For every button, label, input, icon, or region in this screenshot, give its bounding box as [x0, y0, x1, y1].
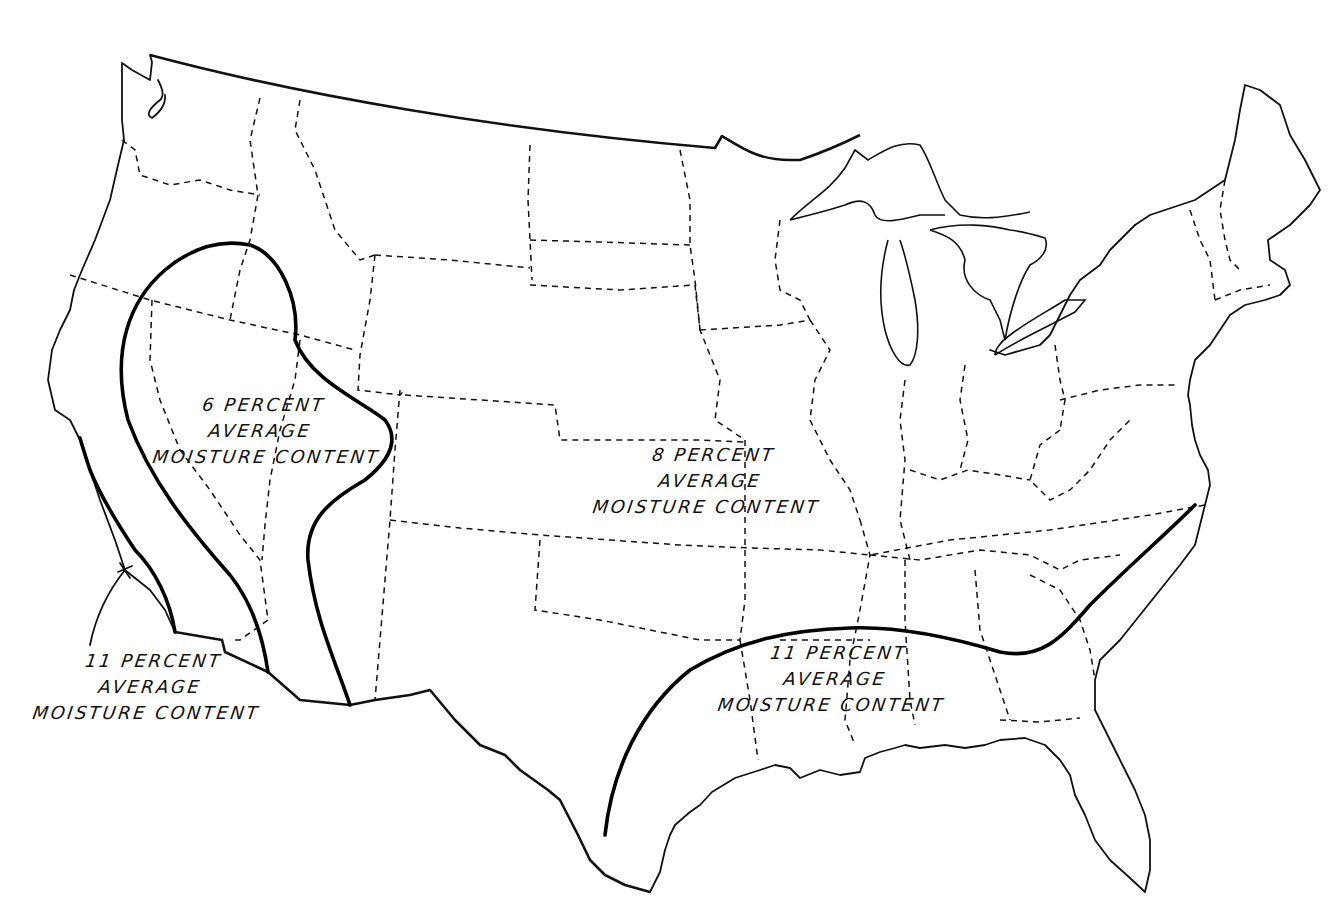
zone-11-pacific-line-2: AVERAGE [23, 674, 277, 700]
zone-6-boundary [121, 243, 392, 705]
lake-ontario [990, 225, 1135, 355]
zone-11-pacific-line-1: 11 PERCENT [27, 648, 281, 674]
puget-sound [149, 80, 165, 118]
zone-11-southeast-line-3: MOISTURE CONTENT [700, 692, 964, 718]
great-lakes [790, 144, 1085, 366]
zone-11-pacific-label: 11 PERCENT AVERAGE MOISTURE CONTENT [20, 648, 281, 726]
zone-6-line-3: MOISTURE CONTENT [135, 444, 399, 470]
zone-6-label: 6 PERCENT AVERAGE MOISTURE CONTENT [135, 392, 406, 470]
zone-boundaries [80, 243, 1195, 835]
lake-erie [995, 300, 1085, 355]
zone-8-line-3: MOISTURE CONTENT [570, 494, 844, 520]
zone-8-line-2: AVERAGE [573, 468, 847, 494]
atlantic-coastline [1095, 85, 1320, 710]
zone-11-southeast-line-1: 11 PERCENT [707, 640, 971, 666]
pacific-label-leader [90, 563, 132, 645]
zone-11-pacific-line-3: MOISTURE CONTENT [20, 700, 274, 726]
zone-8-label: 8 PERCENT AVERAGE MOISTURE CONTENT [570, 442, 851, 520]
gulf-coastline [650, 710, 1150, 892]
zone-6-line-1: 6 PERCENT [122, 392, 406, 418]
lake-superior [790, 144, 1030, 221]
zone-6-line-2: AVERAGE [118, 418, 402, 444]
zone-11-southeast-label: 11 PERCENT AVERAGE MOISTURE CONTENT [700, 640, 971, 718]
zone-11-southeast-line-2: AVERAGE [703, 666, 967, 692]
zone-8-line-1: 8 PERCENT [577, 442, 851, 468]
canada-border [150, 55, 860, 160]
pacific-coastline [48, 55, 175, 632]
lake-michigan [881, 240, 918, 365]
